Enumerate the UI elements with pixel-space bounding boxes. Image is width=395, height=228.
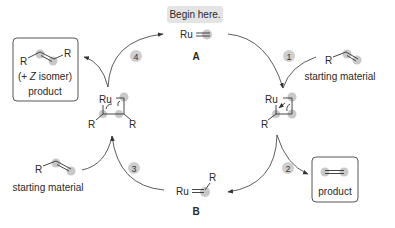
highlight-icon xyxy=(202,30,212,40)
step-1-badge: 1 xyxy=(283,50,295,62)
svg-text:2: 2 xyxy=(285,164,290,174)
metallacycle-right: Ru R xyxy=(261,93,297,131)
arrow-step-3-sm xyxy=(82,136,112,170)
svg-text:Ru: Ru xyxy=(99,94,112,105)
catalytic-cycle-diagram: Begin here. Ru A 4 1 3 2 R start xyxy=(0,0,395,228)
step-4-badge: 4 xyxy=(130,50,142,62)
begin-here-text: Begin here. xyxy=(169,9,220,20)
begin-here-callout: Begin here. xyxy=(167,6,223,23)
species-a: Ru A xyxy=(180,29,212,62)
step-2-badge: 2 xyxy=(282,162,294,174)
svg-text:R: R xyxy=(129,119,136,130)
starting-material-left: R starting material xyxy=(12,159,83,194)
species-b-label: B xyxy=(192,206,199,217)
species-b: Ru R B xyxy=(176,172,216,217)
species-b-substituent: R xyxy=(209,172,216,183)
arrow-step-4-product xyxy=(84,57,108,87)
svg-text:R: R xyxy=(20,56,27,67)
svg-text:4: 4 xyxy=(133,52,138,62)
svg-text:Ru: Ru xyxy=(176,186,189,197)
product-left-label: product xyxy=(28,86,62,97)
svg-text:Ru: Ru xyxy=(265,94,278,105)
svg-text:1: 1 xyxy=(286,52,291,62)
starting-material-left-label: starting material xyxy=(12,182,83,193)
diagram-canvas: Begin here. Ru A 4 1 3 2 R start xyxy=(0,0,395,228)
product-right-label: product xyxy=(318,186,352,197)
species-a-label: A xyxy=(192,51,199,62)
svg-text:R: R xyxy=(35,164,42,175)
arrow-step-2 xyxy=(228,135,277,192)
svg-text:R: R xyxy=(64,48,71,59)
arrow-step-1 xyxy=(228,34,283,88)
svg-text:R: R xyxy=(261,119,268,130)
product-box-left: R R (+ Z isomer) product xyxy=(13,38,78,101)
starting-material-right: R starting material xyxy=(304,50,375,83)
metallacycle-left: Ru R R xyxy=(88,93,136,131)
starting-material-right-label: starting material xyxy=(304,71,375,82)
svg-text:R: R xyxy=(88,119,95,130)
arrow-step-3 xyxy=(112,136,164,190)
species-a-metal: Ru xyxy=(180,29,193,40)
z-isomer-note: (+ Z isomer) xyxy=(18,71,72,82)
product-box-right: product xyxy=(312,157,358,202)
step-3-badge: 3 xyxy=(128,162,140,174)
svg-text:3: 3 xyxy=(131,164,136,174)
svg-text:R: R xyxy=(325,55,332,66)
